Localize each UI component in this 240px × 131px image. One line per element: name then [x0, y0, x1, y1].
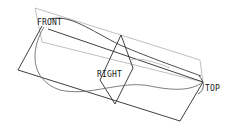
cad-viewport[interactable]: FRONT RIGHT TOP — [0, 0, 240, 131]
sketch-curve — [35, 18, 203, 94]
datum-plane-drawing: FRONT RIGHT TOP — [0, 0, 240, 131]
top-plane-label: TOP — [205, 84, 220, 93]
right-plane-label: RIGHT — [97, 70, 122, 79]
front-plane-label: FRONT — [37, 18, 62, 27]
